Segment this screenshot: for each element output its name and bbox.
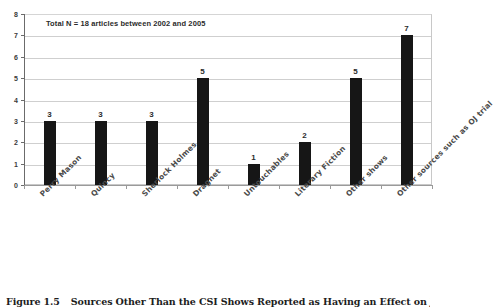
y-axis-tick-label: 7	[0, 32, 18, 39]
x-axis-tick-mark	[228, 185, 229, 189]
y-axis-tick-mark	[21, 57, 24, 58]
figure-caption: Figure 1.5Sources Other Than the CSI Sho…	[6, 296, 430, 307]
bar	[401, 35, 413, 185]
x-axis-tick-mark	[432, 185, 433, 189]
x-axis-tick-mark	[75, 185, 76, 189]
gridline	[25, 79, 431, 80]
bar-value-label: 3	[86, 110, 116, 119]
y-axis-tick-mark	[21, 164, 24, 165]
bar	[350, 78, 362, 185]
y-axis-tick-mark	[21, 78, 24, 79]
x-axis-tick-mark	[330, 185, 331, 189]
bar-value-label: 2	[290, 131, 320, 140]
x-axis-tick-mark	[381, 185, 382, 189]
y-axis-tick-mark	[21, 100, 24, 101]
y-axis-tick-label: 5	[0, 75, 18, 82]
bar-value-label: 1	[239, 153, 269, 162]
bar-value-label: 3	[137, 110, 167, 119]
y-axis-tick-mark	[21, 14, 24, 15]
x-axis-tick-mark	[279, 185, 280, 189]
bar-value-label: 5	[341, 67, 371, 76]
y-axis-tick-label: 3	[0, 117, 18, 124]
bar-value-label: 7	[392, 24, 422, 33]
y-axis-tick-label: 6	[0, 53, 18, 60]
chart-annotation: Total N = 18 articles between 2002 and 2…	[46, 19, 205, 28]
y-axis-tick-label: 8	[0, 11, 18, 18]
bar-value-label: 3	[35, 110, 65, 119]
gridline	[25, 143, 431, 144]
y-axis-line	[24, 14, 25, 186]
gridline	[25, 101, 431, 102]
x-axis-tick-mark	[177, 185, 178, 189]
y-axis-tick-mark	[21, 142, 24, 143]
y-axis-tick-label: 2	[0, 139, 18, 146]
y-axis-tick-mark	[21, 35, 24, 36]
chart-plot-area	[24, 14, 432, 185]
bar-value-label: 5	[188, 67, 218, 76]
gridline	[25, 122, 431, 123]
x-axis-tick-mark	[24, 185, 25, 189]
figure-number: Figure 1.5	[6, 296, 60, 307]
figure-caption-text: Sources Other Than the CSI Shows Reporte…	[71, 296, 430, 307]
y-axis-tick-label: 0	[0, 182, 18, 189]
y-axis-tick-mark	[21, 121, 24, 122]
gridline	[25, 58, 431, 59]
bar	[197, 78, 209, 185]
gridline	[25, 36, 431, 37]
x-axis-tick-mark	[126, 185, 127, 189]
y-axis-tick-label: 4	[0, 96, 18, 103]
y-axis-tick-label: 1	[0, 160, 18, 167]
